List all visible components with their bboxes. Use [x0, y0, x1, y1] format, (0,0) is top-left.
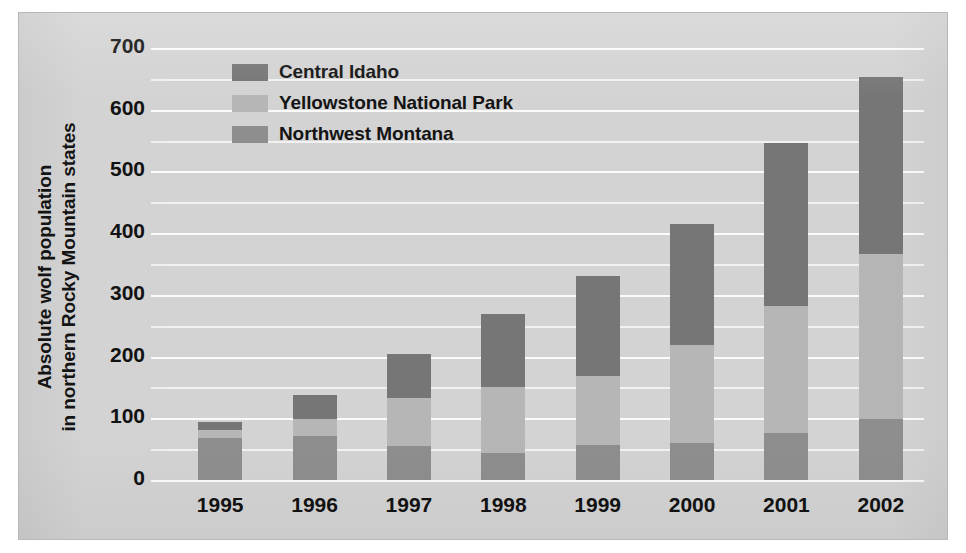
y-axis-title-line-1: Absolute wolf population [34, 165, 56, 390]
y-axis-tick-minor [151, 264, 169, 266]
bar-segment[interactable] [859, 254, 903, 419]
legend-swatch-icon [232, 64, 268, 81]
legend-item[interactable]: Yellowstone National Park [232, 92, 513, 114]
bar-1998[interactable]: 1998 [481, 314, 525, 481]
y-axis-tick-minor [151, 141, 169, 143]
bar-2000[interactable]: 2000 [670, 224, 714, 481]
gridline-minor [169, 326, 924, 328]
y-axis-tick-major [151, 418, 169, 420]
y-axis-tick-major [151, 233, 169, 235]
y-axis-tick-minor [151, 326, 169, 328]
y-axis-tick-major [151, 48, 169, 50]
y-axis-tick-minor [151, 79, 169, 81]
y-axis-tick-major [151, 295, 169, 297]
bar-segment[interactable] [293, 395, 337, 420]
y-axis-title-line-2: in northern Rocky Mountain states [58, 122, 80, 431]
y-axis-tick-label: 300 [110, 281, 145, 305]
bar-segment[interactable] [198, 430, 242, 438]
gridline-major [169, 171, 924, 173]
bar-segment[interactable] [198, 438, 242, 481]
x-axis-tick-label: 1999 [553, 493, 643, 517]
x-axis-tick-label: 2000 [647, 493, 737, 517]
legend-label: Northwest Montana [279, 123, 454, 145]
x-axis-tick-label: 1997 [364, 493, 454, 517]
gridline-minor [169, 449, 924, 451]
y-axis-tick-label: 400 [110, 219, 145, 243]
x-axis-tick-label: 2001 [741, 493, 831, 517]
bar-segment[interactable] [293, 419, 337, 436]
legend-label: Yellowstone National Park [279, 92, 513, 114]
y-axis-tick-label: 500 [110, 158, 145, 182]
y-axis-tick-minor [151, 387, 169, 389]
gridline-minor [169, 387, 924, 389]
gridline-minor [169, 202, 924, 204]
y-axis-tick-label: 600 [110, 96, 145, 120]
bar-1995[interactable]: 1995 [198, 422, 242, 481]
bar-segment[interactable] [670, 443, 714, 481]
bar-segment[interactable] [198, 422, 242, 431]
bar-segment[interactable] [670, 345, 714, 443]
bar-segment[interactable] [481, 314, 525, 386]
bar-segment[interactable] [859, 77, 903, 254]
legend-swatch-icon [232, 95, 268, 112]
bar-segment[interactable] [576, 376, 620, 445]
x-axis-tick-label: 1996 [270, 493, 360, 517]
bar-segment[interactable] [387, 446, 431, 481]
bar-segment[interactable] [859, 419, 903, 481]
bar-1996[interactable]: 1996 [293, 395, 337, 481]
y-axis-tick-label: 100 [110, 404, 145, 428]
bar-1997[interactable]: 1997 [387, 354, 431, 481]
x-axis-tick-label: 1998 [458, 493, 548, 517]
x-axis-tick-label: 1995 [175, 493, 265, 517]
legend-swatch-icon [232, 126, 268, 143]
bar-1999[interactable]: 1999 [576, 276, 620, 481]
bar-segment[interactable] [670, 224, 714, 346]
bar-2001[interactable]: 2001 [764, 143, 808, 481]
gridline-minor [169, 264, 924, 266]
bar-segment[interactable] [576, 276, 620, 377]
y-axis-tick-label: 700 [110, 34, 145, 58]
gridline-major [169, 357, 924, 359]
legend-label: Central Idaho [279, 61, 399, 83]
bar-segment[interactable] [387, 354, 431, 398]
y-axis-title: Absolute wolf population in northern Roc… [27, 13, 83, 541]
gridline-major [169, 295, 924, 297]
legend-item[interactable]: Central Idaho [232, 61, 513, 83]
bar-segment[interactable] [764, 143, 808, 306]
chart-legend: Central IdahoYellowstone National ParkNo… [232, 61, 513, 145]
x-axis-baseline [151, 480, 924, 482]
y-axis-tick-minor [151, 202, 169, 204]
chart-figure: Absolute wolf population in northern Roc… [18, 12, 948, 540]
bar-segment[interactable] [481, 453, 525, 481]
y-axis-tick-major [151, 357, 169, 359]
x-axis-tick-label: 2002 [836, 493, 926, 517]
y-axis-tick-major [151, 171, 169, 173]
bar-segment[interactable] [576, 445, 620, 481]
y-axis-tick-major [151, 110, 169, 112]
gridline-major [169, 233, 924, 235]
bar-segment[interactable] [481, 387, 525, 454]
y-axis-tick-label: 200 [110, 343, 145, 367]
y-axis-tick-label: 0 [133, 466, 145, 490]
gridline-major [169, 48, 924, 50]
gridline-major [169, 418, 924, 420]
y-axis-tick-minor [151, 449, 169, 451]
bar-2002[interactable]: 2002 [859, 77, 903, 481]
bar-segment[interactable] [387, 398, 431, 446]
bar-segment[interactable] [764, 433, 808, 481]
bar-segment[interactable] [764, 306, 808, 434]
legend-item[interactable]: Northwest Montana [232, 123, 513, 145]
bar-segment[interactable] [293, 436, 337, 481]
